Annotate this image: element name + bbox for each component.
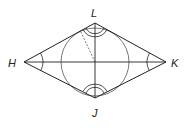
vertex-label-k: K: [171, 57, 179, 69]
vertex-label-l: L: [91, 7, 97, 19]
rhombus-diagram: L K J H: [0, 0, 185, 128]
vertex-label-h: H: [8, 57, 16, 69]
vertex-label-j: J: [91, 107, 98, 119]
